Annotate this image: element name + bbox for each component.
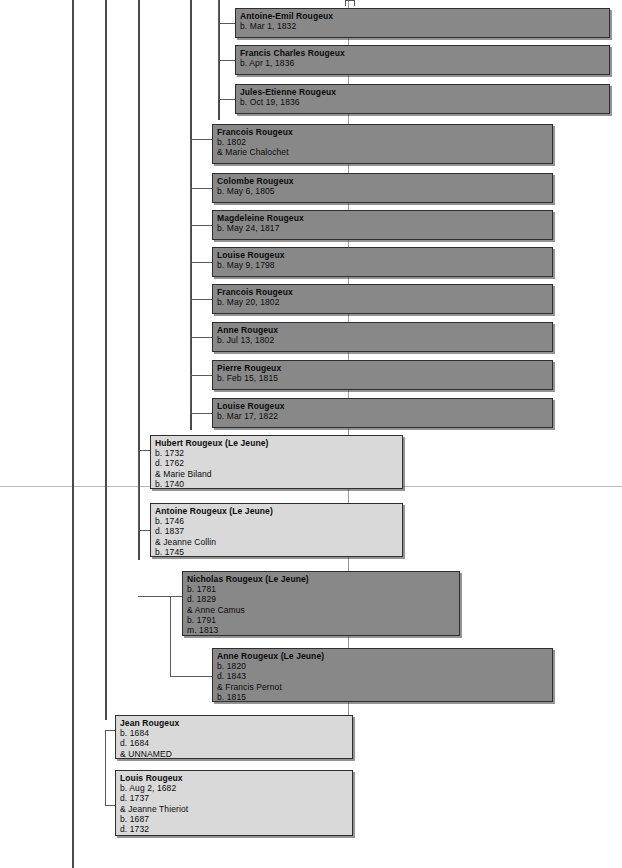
stub-louise-1822 bbox=[190, 413, 212, 414]
person-detail: d. 1732 bbox=[120, 824, 352, 834]
person-name: Jules-Etienne Rougeux bbox=[240, 87, 609, 97]
stub-louise-1798 bbox=[190, 262, 212, 263]
person-detail: b. May 6, 1805 bbox=[217, 186, 552, 196]
person-name: Francois Rougeux bbox=[217, 287, 552, 297]
person-detail: b. Oct 19, 1836 bbox=[240, 97, 609, 107]
person-node-colombe-rougeux[interactable]: Colombe Rougeuxb. May 6, 1805 bbox=[212, 173, 553, 203]
person-name: Francis Charles Rougeux bbox=[240, 48, 609, 58]
person-detail: & Marie Biland bbox=[155, 469, 402, 479]
person-node-jules-etienne-rougeux[interactable]: Jules-Etienne Rougeuxb. Oct 19, 1836 bbox=[235, 84, 610, 114]
stub-francois-1802b bbox=[190, 299, 212, 300]
person-node-magdeleine-rougeux[interactable]: Magdeleine Rougeuxb. May 24, 1817 bbox=[212, 210, 553, 240]
person-detail: b. 1687 bbox=[120, 814, 352, 824]
person-detail: b. Mar 17, 1822 bbox=[217, 411, 552, 421]
person-detail: & Marie Chalochet bbox=[217, 147, 552, 157]
trunk-2 bbox=[105, 0, 107, 720]
stub-pierre-1815 bbox=[190, 375, 212, 376]
person-name: Antoine Rougeux (Le Jeune) bbox=[155, 506, 402, 516]
person-node-louis-rougeux[interactable]: Louis Rougeuxb. Aug 2, 1682d. 1737& Jean… bbox=[115, 770, 353, 836]
person-detail: b. Mar 1, 1832 bbox=[240, 21, 609, 31]
person-name: Louise Rougeux bbox=[217, 401, 552, 411]
person-detail: b. 1745 bbox=[155, 547, 402, 557]
stub-francis-charles bbox=[218, 60, 235, 61]
stub-francois-1802 bbox=[190, 139, 212, 140]
sibling-spine-group-d bbox=[170, 596, 171, 676]
person-name: Nicholas Rougeux (Le Jeune) bbox=[187, 574, 459, 584]
person-detail: b. 1684 bbox=[120, 728, 352, 738]
person-node-antoine-emil-rougeux[interactable]: Antoine-Emil Rougeuxb. Mar 1, 1832 bbox=[235, 8, 610, 38]
person-node-anne-rougeux-1802[interactable]: Anne Rougeuxb. Jul 13, 1802 bbox=[212, 322, 553, 352]
stub-anne-le-jeune bbox=[170, 676, 212, 677]
person-detail: d. 1737 bbox=[120, 793, 352, 803]
person-name: Jean Rougeux bbox=[120, 718, 352, 728]
person-node-anne-rougeux-le-jeune[interactable]: Anne Rougeux (Le Jeune)b. 1820d. 1843& F… bbox=[212, 648, 553, 702]
person-name: Magdeleine Rougeux bbox=[217, 213, 552, 223]
person-node-louise-rougeux-1822[interactable]: Louise Rougeuxb. Mar 17, 1822 bbox=[212, 398, 553, 428]
top-stub-marker bbox=[345, 0, 355, 6]
person-name: Hubert Rougeux (Le Jeune) bbox=[155, 438, 402, 448]
person-name: Anne Rougeux (Le Jeune) bbox=[217, 651, 552, 661]
person-detail: b. 1791 bbox=[187, 615, 459, 625]
person-node-nicholas-rougeux-le-jeune[interactable]: Nicholas Rougeux (Le Jeune)b. 1781d. 182… bbox=[182, 571, 460, 636]
sibling-spine-group-c bbox=[138, 450, 139, 530]
sibling-spine-group-b bbox=[190, 139, 191, 414]
drop-descendant-lower bbox=[348, 636, 349, 648]
person-name: Louise Rougeux bbox=[217, 250, 552, 260]
person-detail: b. Jul 13, 1802 bbox=[217, 335, 552, 345]
person-name: Antoine-Emil Rougeux bbox=[240, 11, 609, 21]
person-name: Pierre Rougeux bbox=[217, 363, 552, 373]
trunk-1 bbox=[72, 0, 74, 868]
person-detail: b. May 24, 1817 bbox=[217, 223, 552, 233]
person-detail: d. 1837 bbox=[155, 526, 402, 536]
person-node-francois-rougeux-1802[interactable]: Francois Rougeuxb. 1802& Marie Chalochet bbox=[212, 124, 553, 164]
person-detail: b. 1746 bbox=[155, 516, 402, 526]
person-name: Francois Rougeux bbox=[217, 127, 552, 137]
person-detail: b. 1802 bbox=[217, 137, 552, 147]
person-detail: b. May 20, 1802 bbox=[217, 297, 552, 307]
stub-antoine-emil bbox=[218, 23, 235, 24]
person-node-hubert-rougeux-le-jeune[interactable]: Hubert Rougeux (Le Jeune)b. 1732d. 1762&… bbox=[150, 435, 403, 489]
person-detail: b. 1732 bbox=[155, 448, 402, 458]
person-detail: m. 1813 bbox=[187, 625, 459, 635]
stub-jules-etienne bbox=[218, 99, 235, 100]
person-detail: & UNNAMED bbox=[120, 749, 352, 759]
person-node-pierre-rougeux-1815[interactable]: Pierre Rougeuxb. Feb 15, 1815 bbox=[212, 360, 553, 390]
stub-louis bbox=[105, 805, 115, 806]
person-detail: d. 1762 bbox=[155, 458, 402, 468]
person-detail: b. 1781 bbox=[187, 584, 459, 594]
person-detail: & Anne Camus bbox=[187, 605, 459, 615]
person-detail: m. 1711 bbox=[120, 834, 352, 836]
person-detail: b. 1820 bbox=[217, 661, 552, 671]
person-name: Colombe Rougeux bbox=[217, 176, 552, 186]
stub-magdeleine bbox=[190, 225, 212, 226]
stub-jean bbox=[105, 730, 115, 731]
stub-anne-1802 bbox=[190, 337, 212, 338]
person-node-francois-rougeux-1802b[interactable]: Francois Rougeuxb. May 20, 1802 bbox=[212, 284, 553, 314]
sibling-spine-group-a bbox=[218, 0, 219, 100]
stub-colombe bbox=[190, 188, 212, 189]
person-detail: & Francis Pernot bbox=[217, 682, 552, 692]
person-detail: b. 1815 bbox=[217, 692, 552, 702]
stub-nicholas bbox=[138, 596, 182, 597]
person-detail: b. May 9, 1798 bbox=[217, 260, 552, 270]
person-detail: & Jeanne Thieriot bbox=[120, 804, 352, 814]
sibling-spine-group-e bbox=[105, 730, 106, 805]
person-name: Anne Rougeux bbox=[217, 325, 552, 335]
person-name: Louis Rougeux bbox=[120, 773, 352, 783]
drop-descendant-bottom bbox=[348, 702, 349, 715]
person-detail: d. 1843 bbox=[217, 671, 552, 681]
person-detail: d. 1684 bbox=[120, 738, 352, 748]
person-node-jean-rougeux[interactable]: Jean Rougeuxb. 1684d. 1684& UNNAMED bbox=[115, 715, 353, 759]
person-node-louise-rougeux-1798[interactable]: Louise Rougeuxb. May 9, 1798 bbox=[212, 247, 553, 277]
stub-antoine bbox=[138, 530, 150, 531]
person-detail: b. Aug 2, 1682 bbox=[120, 783, 352, 793]
person-detail: b. 1740 bbox=[155, 479, 402, 489]
family-tree-chart: Antoine-Emil Rougeuxb. Mar 1, 1832Franci… bbox=[0, 0, 622, 868]
person-detail: b. Apr 1, 1836 bbox=[240, 58, 609, 68]
person-node-antoine-rougeux-le-jeune[interactable]: Antoine Rougeux (Le Jeune)b. 1746d. 1837… bbox=[150, 503, 403, 557]
person-detail: b. Feb 15, 1815 bbox=[217, 373, 552, 383]
person-node-francis-charles-rougeux[interactable]: Francis Charles Rougeuxb. Apr 1, 1836 bbox=[235, 45, 610, 75]
person-detail: & Jeanne Collin bbox=[155, 537, 402, 547]
stub-hubert bbox=[138, 450, 150, 451]
person-detail: d. 1829 bbox=[187, 594, 459, 604]
